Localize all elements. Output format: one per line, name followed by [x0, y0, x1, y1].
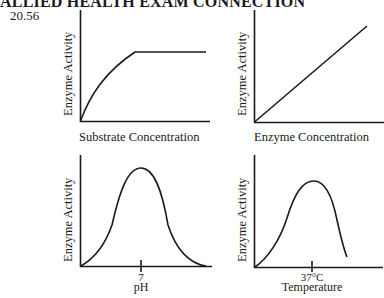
x-label-substrate: Substrate Concentration — [79, 130, 200, 144]
chart-enzyme-concentration — [255, 10, 384, 123]
chart-temperature — [255, 155, 384, 272]
y-label-2: Enzyme Activity — [235, 31, 249, 116]
y-label-3: Enzyme Activity — [61, 177, 75, 262]
curve-substrate — [81, 52, 207, 121]
y-axis — [81, 10, 211, 122]
y-label-4: Enzyme Activity — [235, 177, 249, 262]
y-axis — [255, 155, 384, 268]
enzyme-charts: Enzyme Activity Enzyme Activity Enzyme A… — [0, 0, 384, 298]
x-label-temperature: Temperature — [282, 280, 342, 294]
curve-ph — [81, 168, 206, 266]
y-axis — [81, 155, 213, 267]
chart-ph — [81, 155, 213, 272]
y-label-1: Enzyme Activity — [61, 31, 75, 116]
curve-temperature — [255, 181, 347, 267]
chart-substrate — [81, 10, 211, 122]
x-label-enzyme-concentration: Enzyme Concentration — [254, 130, 370, 144]
x-label-ph: pH — [134, 280, 149, 294]
line-enzyme — [255, 26, 368, 122]
